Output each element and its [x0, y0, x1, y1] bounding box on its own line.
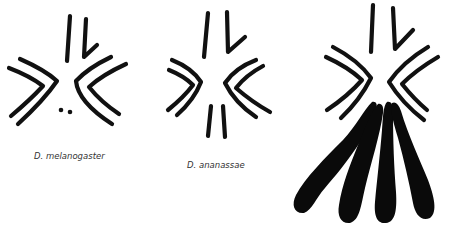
rod-chromosome	[67, 16, 70, 61]
ananassae-karyotype	[168, 12, 270, 137]
short-rod-chromosome	[223, 106, 225, 137]
species-caption: D. ananassae	[187, 160, 245, 170]
right-outer-v-chromosome	[225, 60, 256, 117]
left-inner-v-chromosome	[333, 47, 371, 118]
hooked-chromosome	[393, 8, 413, 49]
dot-chromosome	[68, 110, 73, 115]
dot-chromosome	[59, 108, 64, 113]
species-caption: D. melanogaster	[34, 151, 105, 161]
left-inner-v-chromosome	[172, 60, 201, 115]
hooked-chromosome	[227, 12, 245, 52]
third-karyotype	[294, 5, 438, 223]
short-rod-chromosome	[208, 106, 211, 136]
melanogaster-karyotype	[9, 16, 126, 124]
chromosome-diagram	[0, 0, 450, 241]
hooked-chromosome	[84, 19, 97, 57]
right-inner-v-chromosome	[402, 57, 438, 110]
left-outer-v-chromosome	[9, 68, 43, 116]
club-chromosome	[391, 102, 434, 219]
rod-chromosome	[371, 5, 373, 52]
right-inner-v-chromosome	[89, 64, 126, 114]
rod-chromosome	[204, 13, 208, 57]
